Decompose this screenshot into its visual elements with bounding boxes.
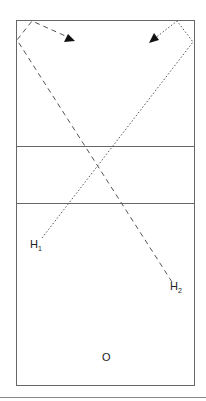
origin-label: O [102, 351, 111, 363]
h2-label: H2 [170, 280, 182, 294]
arrow-head-right-icon [64, 34, 75, 42]
arrow-head-left-icon [149, 33, 159, 43]
h1-dotted-path [42, 21, 193, 238]
court-diagram [0, 0, 206, 401]
h1-label: H1 [30, 238, 42, 252]
